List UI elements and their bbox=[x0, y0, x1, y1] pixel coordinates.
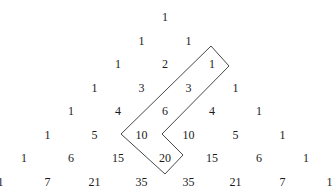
triangle-cell: 7 bbox=[280, 174, 286, 189]
triangle-cell: 1 bbox=[45, 127, 51, 142]
triangle-cell: 21 bbox=[230, 174, 242, 189]
triangle-cell: 35 bbox=[136, 174, 148, 189]
triangle-cell: 1 bbox=[115, 57, 121, 72]
triangle-cell: 4 bbox=[115, 104, 121, 119]
triangle-cell: 1 bbox=[139, 33, 145, 48]
triangle-cell: 1 bbox=[280, 127, 286, 142]
triangle-cell: 7 bbox=[45, 174, 51, 189]
triangle-cell: 1 bbox=[68, 104, 74, 119]
triangle-cell: 15 bbox=[206, 151, 218, 166]
triangle-cell: 4 bbox=[209, 104, 215, 119]
triangle-cell: 1 bbox=[92, 80, 98, 95]
triangle-cell: 1 bbox=[303, 151, 309, 166]
triangle-cell: 1 bbox=[256, 104, 262, 119]
triangle-cell: 1 bbox=[0, 174, 4, 189]
triangle-cell: 1 bbox=[209, 57, 215, 72]
triangle-cell: 6 bbox=[256, 151, 262, 166]
triangle-cell: 20 bbox=[159, 151, 171, 166]
triangle-cell: 1 bbox=[186, 33, 192, 48]
triangle-cell: 10 bbox=[183, 127, 195, 142]
triangle-cell: 5 bbox=[92, 127, 98, 142]
triangle-cell: 2 bbox=[162, 57, 168, 72]
triangle-cell: 1 bbox=[162, 10, 168, 25]
pascal-triangle-diagram: 1111211331146411510105116152015611721353… bbox=[0, 0, 333, 193]
triangle-cell: 10 bbox=[136, 127, 148, 142]
triangle-cell: 6 bbox=[162, 104, 168, 119]
triangle-cell: 21 bbox=[89, 174, 101, 189]
triangle-cell: 5 bbox=[233, 127, 239, 142]
triangle-cell: 3 bbox=[186, 80, 192, 95]
triangle-cell: 3 bbox=[139, 80, 145, 95]
triangle-cell: 1 bbox=[233, 80, 239, 95]
triangle-cell: 6 bbox=[68, 151, 74, 166]
triangle-cell: 1 bbox=[21, 151, 27, 166]
triangle-cell: 35 bbox=[183, 174, 195, 189]
triangle-cell: 15 bbox=[112, 151, 124, 166]
triangle-cell: 1 bbox=[327, 174, 333, 189]
